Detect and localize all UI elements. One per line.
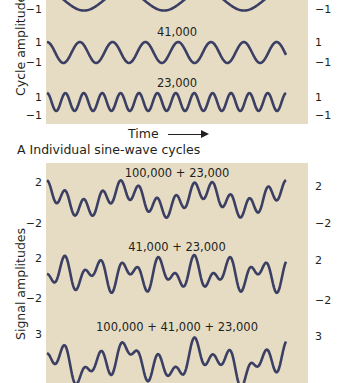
tick-left-a1-neg: −1	[0, 4, 42, 16]
wave-100000	[47, 0, 286, 11]
tick-right-b3-pos: 3	[315, 331, 339, 343]
time-arrowhead-icon	[201, 130, 209, 138]
panel-a-caption: A Individual sine-wave cycles	[17, 142, 200, 157]
tick-right-b2-pos: 2	[315, 255, 339, 267]
tick-right-a1-neg: −1	[315, 4, 339, 16]
tick-left-b1-neg: −2	[0, 218, 42, 230]
tick-right-b1-neg: −2	[315, 218, 339, 230]
tick-left-a2-pos: 1	[0, 37, 42, 49]
wave-23000	[47, 93, 286, 111]
tick-left-b2-pos: 2	[0, 253, 42, 265]
signal-label-41k-23k: 41,000 + 23,000	[46, 240, 308, 254]
wave-41000	[47, 42, 286, 63]
signal-label-100k-41k-23k: 100,000 + 41,000 + 23,000	[46, 320, 308, 334]
wave-label-23000: 23,000	[46, 76, 308, 90]
wave-label-41000: 41,000	[46, 25, 308, 39]
tick-right-a2-neg: −1	[315, 57, 339, 69]
tick-left-b1-pos: 2	[0, 177, 42, 189]
tick-right-a2-pos: 1	[315, 37, 339, 49]
tick-left-a2-neg: −1	[0, 57, 42, 69]
tick-left-a3-pos: 1	[0, 92, 42, 104]
x-axis-label-time: Time	[128, 126, 159, 141]
tick-left-a3-neg: −1	[0, 110, 42, 122]
signal-41k-23k	[47, 255, 286, 293]
tick-right-b1-pos: 2	[315, 181, 339, 193]
tick-right-a3-pos: 1	[315, 92, 339, 104]
tick-right-a3-neg: −1	[315, 110, 339, 122]
y-axis-label-signal-amplitudes: Signal amplitudes	[13, 228, 28, 340]
signal-label-100k-23k: 100,000 + 23,000	[46, 166, 308, 180]
tick-right-b2-neg: −2	[315, 295, 339, 307]
tick-left-b3-pos: 3	[0, 329, 42, 341]
tick-left-b2-neg: −2	[0, 293, 42, 305]
signal-100k-23k	[47, 180, 286, 218]
time-arrow-icon	[168, 134, 202, 135]
